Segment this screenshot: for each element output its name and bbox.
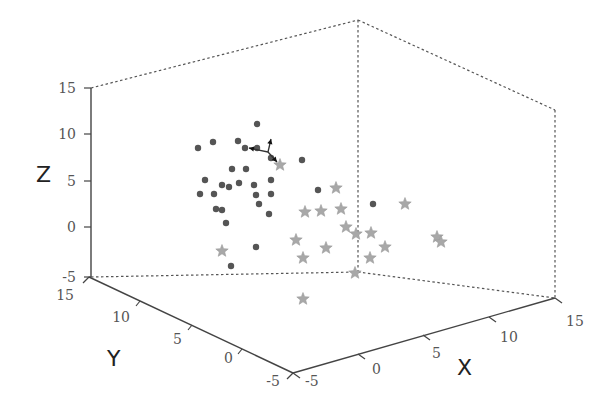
data-point-star (335, 203, 347, 215)
y-tick-label: -5 (266, 373, 280, 389)
data-point-dot (251, 182, 257, 188)
data-point-dot (210, 139, 216, 145)
data-point-dot (253, 244, 259, 250)
z-tick-label: 15 (58, 80, 76, 96)
data-point-dot (228, 263, 234, 269)
data-point-star (320, 242, 332, 254)
data-point-star (297, 293, 309, 305)
z-tick-label: -5 (62, 269, 76, 285)
x-tick-label: 5 (432, 345, 441, 361)
box-top-right-edge (358, 20, 555, 110)
x-tick-label: 0 (372, 361, 381, 377)
data-point-dot (219, 182, 225, 188)
x-ticks: -5 0 5 10 15 (293, 298, 584, 389)
z-axis-title: Z (36, 162, 51, 187)
data-point-star (299, 206, 311, 218)
y-tick-label: 10 (112, 309, 130, 325)
y-tick-label: 5 (173, 331, 182, 347)
data-point-dot (195, 145, 201, 151)
x-axis-title: X (457, 355, 472, 380)
arrowhead-icon (267, 139, 272, 145)
data-point-dot (253, 192, 259, 198)
data-point-dot (235, 138, 241, 144)
data-point-dot (213, 206, 219, 212)
data-point-dot (242, 145, 248, 151)
data-point-dot (243, 166, 249, 172)
data-point-dot (229, 166, 235, 172)
data-point-dot (223, 220, 229, 226)
data-point-dot (315, 187, 321, 193)
z-tick-label: 0 (67, 219, 76, 235)
data-point-star (399, 198, 411, 210)
data-point-star (315, 205, 327, 217)
x-tick-label: -5 (305, 373, 319, 389)
data-point-star (297, 252, 309, 264)
arrowhead-icon (249, 147, 254, 152)
data-point-dot (254, 121, 260, 127)
y-ticks: 15 10 5 0 -5 (56, 277, 293, 389)
axes (89, 88, 555, 373)
x-tick-label: 10 (500, 329, 518, 345)
class-2-star-markers (216, 159, 447, 305)
data-point-dot (197, 191, 203, 197)
data-point-star (379, 241, 391, 253)
data-point-dot (268, 191, 274, 197)
data-point-dot (256, 201, 262, 207)
data-point-star (216, 245, 228, 257)
data-point-dot (219, 207, 225, 213)
data-point-star (330, 182, 342, 194)
data-point-dot (202, 177, 208, 183)
data-point-star (340, 221, 352, 233)
data-point-dot (211, 191, 217, 197)
data-point-star (350, 228, 362, 240)
data-point-dot (266, 211, 272, 217)
x-tick-label: 15 (566, 313, 584, 329)
box-top-left-edge (91, 20, 358, 88)
data-point-dot (268, 177, 274, 183)
scatter-3d-chart: 15 10 5 0 -5 Z 15 10 5 0 -5 Y -5 0 5 10 … (0, 0, 610, 407)
box-bottom-right-edge (358, 272, 555, 298)
z-ticks: 15 10 5 0 -5 (58, 80, 91, 285)
data-point-dot (299, 157, 305, 163)
data-point-star (364, 252, 376, 264)
box-bottom-left-edge (91, 272, 358, 277)
data-point-star (349, 267, 361, 279)
y-axis-title: Y (106, 346, 121, 371)
data-point-dot (370, 201, 376, 207)
y-tick-label: 15 (56, 287, 74, 303)
data-point-star (365, 227, 377, 239)
data-point-dot (236, 180, 242, 186)
y-tick-label: 0 (224, 350, 233, 366)
z-tick-label: 10 (58, 126, 76, 142)
data-point-star (290, 234, 302, 246)
bounding-box (91, 20, 555, 298)
z-tick-label: 5 (67, 173, 76, 189)
data-point-dot (226, 184, 232, 190)
